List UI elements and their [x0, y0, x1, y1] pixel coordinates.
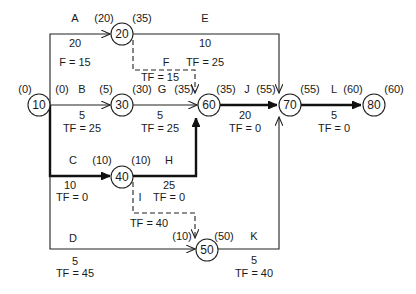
activity-d-name: D — [69, 232, 77, 244]
svg-text:60: 60 — [202, 98, 216, 112]
time-n80-out: (60) — [384, 83, 404, 95]
activity-h-duration: 25 — [163, 179, 175, 191]
time-j-end: (55) — [256, 83, 276, 95]
node-70: 70 — [279, 94, 301, 116]
activity-i-float: TF = 40 — [130, 217, 168, 229]
node-40: 40 — [111, 166, 133, 188]
activity-g-duration: 5 — [157, 109, 163, 121]
activity-d-float: TF = 45 — [56, 267, 94, 279]
activity-b-name: B — [78, 83, 85, 95]
activity-k-name: K — [250, 230, 258, 242]
time-g-end: (35) — [174, 83, 194, 95]
activity-f-name: F — [163, 56, 170, 68]
svg-text:10: 10 — [32, 98, 46, 112]
activity-k-duration: 5 — [251, 254, 257, 266]
activity-d-duration: 5 — [72, 255, 78, 267]
activity-l-duration: 5 — [331, 109, 337, 121]
activity-j-name: J — [244, 83, 250, 95]
activity-a-duration: 20 — [69, 37, 81, 49]
time-n20-in: (20) — [94, 12, 114, 24]
node-50: 50 — [196, 239, 218, 261]
activity-a-float: F = 15 — [59, 56, 91, 68]
network-diagram: 10 20 30 40 50 60 70 80 (0) (0) (20) (35… — [0, 0, 416, 294]
activity-e-name: E — [201, 12, 208, 24]
node-10: 10 — [28, 94, 50, 116]
activity-g-float: TF = 25 — [141, 122, 179, 134]
svg-text:40: 40 — [115, 170, 129, 184]
time-n40-out: (10) — [131, 154, 151, 166]
time-n70-out: (55) — [300, 83, 320, 95]
activity-j-float: TF = 0 — [229, 122, 261, 134]
time-n30-in: (5) — [99, 83, 112, 95]
svg-text:30: 30 — [115, 98, 129, 112]
time-n40-in: (10) — [92, 154, 112, 166]
activity-b-float: TF = 25 — [63, 122, 101, 134]
activity-c-duration: 10 — [64, 179, 76, 191]
time-n60-out: (35) — [216, 83, 236, 95]
node-30: 30 — [111, 94, 133, 116]
activity-g-name: G — [158, 83, 167, 95]
time-n50-out: (50) — [214, 230, 234, 242]
svg-text:50: 50 — [200, 243, 214, 257]
time-b-start: (0) — [55, 83, 68, 95]
activity-l-name: L — [331, 83, 337, 95]
activity-f-float: TF = 15 — [141, 71, 179, 83]
activity-h-float: TF = 0 — [153, 191, 185, 203]
activity-c-name: C — [69, 154, 77, 166]
time-n30-out: (30) — [132, 83, 152, 95]
activity-k-float: TF = 40 — [235, 267, 273, 279]
time-n10-start: (0) — [18, 83, 31, 95]
time-n50-in: (10) — [172, 230, 192, 242]
activity-h-name: H — [165, 154, 173, 166]
node-20: 20 — [111, 23, 133, 45]
svg-text:80: 80 — [367, 98, 381, 112]
activity-e-duration: 10 — [199, 37, 211, 49]
activity-j-duration: 20 — [239, 109, 251, 121]
activity-l-float: TF = 0 — [318, 122, 350, 134]
svg-text:70: 70 — [283, 98, 297, 112]
svg-text:20: 20 — [115, 27, 129, 41]
activity-e-float: TF = 25 — [186, 56, 224, 68]
activity-b-duration: 5 — [79, 109, 85, 121]
activity-i-name: I — [138, 191, 141, 203]
time-l-end: (60) — [343, 83, 363, 95]
activity-c-float: TF = 0 — [56, 191, 88, 203]
node-80: 80 — [363, 94, 385, 116]
activity-a-name: A — [71, 12, 79, 24]
time-n20-out: (35) — [132, 12, 152, 24]
node-60: 60 — [198, 94, 220, 116]
